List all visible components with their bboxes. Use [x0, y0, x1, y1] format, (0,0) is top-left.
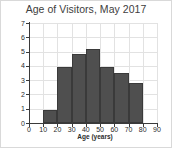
y-tick-label: 5: [16, 48, 25, 55]
plot-area: [29, 23, 157, 123]
y-tick-label: 7: [16, 20, 25, 27]
y-tick-mark: [26, 94, 29, 95]
y-tick-label: 6: [16, 34, 25, 41]
y-tick-mark: [26, 52, 29, 53]
gridline-vertical: [143, 23, 144, 123]
y-tick-label: 2: [16, 91, 25, 98]
histogram-bar: [114, 73, 128, 123]
histogram-bar: [100, 67, 114, 123]
gridline-vertical: [43, 23, 44, 123]
y-tick-label: 3: [16, 77, 25, 84]
gridline-vertical: [157, 23, 158, 123]
chart-title: Age of Visitors, May 2017: [1, 3, 171, 15]
y-tick-mark: [26, 23, 29, 24]
y-tick-mark: [26, 80, 29, 81]
y-tick-mark: [26, 109, 29, 110]
histogram-bar: [72, 54, 86, 123]
y-tick-label: 4: [16, 62, 25, 69]
histogram-bar: [57, 67, 71, 123]
y-tick-mark: [26, 37, 29, 38]
histogram-bar: [43, 110, 57, 123]
histogram-bar: [86, 49, 100, 123]
histogram-figure: Age of Visitors, May 2017 Frequency (000…: [0, 0, 172, 148]
y-tick-label: 1: [16, 105, 25, 112]
histogram-bar: [129, 83, 143, 123]
y-axis-line: [29, 22, 30, 124]
x-axis-label: Age (years): [23, 133, 167, 140]
gridline-horizontal: [29, 23, 157, 24]
x-axis-line: [28, 123, 158, 124]
gridline-horizontal: [29, 37, 157, 38]
y-tick-mark: [26, 66, 29, 67]
